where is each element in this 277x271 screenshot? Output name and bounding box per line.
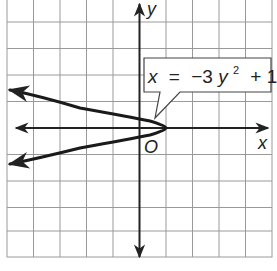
origin-label: O — [144, 137, 158, 157]
y-axis-label: y — [145, 0, 157, 19]
x-axis-label: x — [257, 133, 268, 153]
coordinate-graph: x = −3 y 2 + 1 y x O — [0, 0, 277, 271]
equation-callout: x = −3 y 2 + 1 — [144, 57, 277, 118]
equation-exponent: 2 — [233, 64, 239, 76]
equation-equals: = — [169, 66, 180, 87]
equation-rest: + 1 — [250, 66, 277, 87]
equation-var: y — [216, 66, 229, 87]
equation-coef: −3 — [191, 66, 213, 87]
equation-lhs: x — [147, 66, 159, 87]
